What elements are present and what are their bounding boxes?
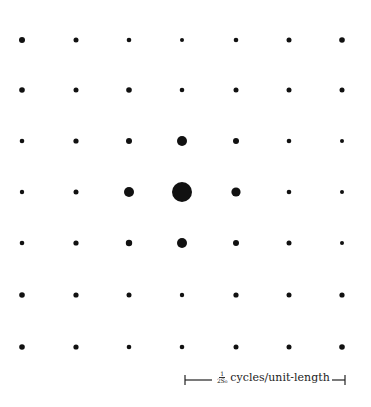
lattice-dot: [234, 345, 239, 350]
lattice-dot: [127, 293, 132, 298]
lattice-dot: [73, 292, 78, 297]
lattice-dot: [339, 292, 344, 297]
lattice-dot: [287, 345, 292, 350]
lattice-dot: [287, 38, 292, 43]
scale-fraction-denominator: 2S₀: [217, 378, 227, 384]
lattice-dot: [180, 293, 184, 297]
lattice-dot: [127, 345, 132, 350]
lattice-dot: [126, 240, 132, 246]
lattice-dot: [287, 241, 292, 246]
lattice-dot: [124, 187, 134, 197]
lattice-dot: [233, 240, 239, 246]
lattice-dot: [233, 292, 238, 297]
lattice-dot: [340, 190, 344, 194]
lattice-dot: [73, 240, 78, 245]
lattice-dot: [180, 38, 184, 42]
lattice-dot: [340, 241, 344, 245]
lattice-dot: [180, 345, 185, 350]
lattice-dot: [234, 88, 239, 93]
lattice-dot: [339, 37, 345, 43]
lattice-dots: [19, 37, 345, 350]
lattice-dot: [20, 190, 24, 194]
lattice-dot: [20, 139, 25, 144]
lattice-dot: [177, 238, 187, 248]
lattice-dot: [233, 138, 239, 144]
scale-unit-label: cycles/unit-length: [230, 371, 329, 384]
lattice-dot: [126, 138, 132, 144]
lattice-dot: [234, 38, 239, 43]
lattice-dot: [339, 344, 345, 350]
lattice-dot: [340, 139, 344, 143]
lattice-dot: [177, 136, 187, 146]
lattice-dot: [127, 38, 132, 43]
lattice-dot: [340, 88, 345, 93]
lattice-dot: [74, 190, 79, 195]
lattice-dot: [287, 88, 292, 93]
lattice-dot: [180, 88, 185, 93]
lattice-dot: [74, 88, 79, 93]
scale-bar-label: 1 2S₀ cycles/unit-length: [215, 371, 332, 384]
lattice-dot: [19, 344, 25, 350]
lattice-dot: [126, 87, 132, 93]
lattice-dot: [20, 241, 25, 246]
lattice-dot: [73, 344, 78, 349]
lattice-dot-figure: [0, 0, 371, 407]
lattice-dot: [287, 139, 292, 144]
lattice-dot: [19, 37, 25, 43]
lattice-dot: [231, 187, 240, 196]
lattice-dot: [287, 293, 292, 298]
lattice-dot: [73, 138, 78, 143]
lattice-dot: [19, 87, 25, 93]
lattice-dot: [19, 292, 25, 298]
scale-fraction: 1 2S₀: [217, 371, 227, 384]
lattice-dot: [172, 182, 192, 202]
lattice-dot: [74, 38, 79, 43]
lattice-dot: [287, 190, 292, 195]
